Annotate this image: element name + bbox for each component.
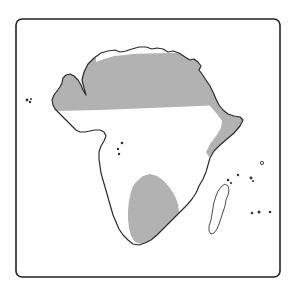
comoros-dot-2 (230, 182, 232, 184)
figure-container (0, 0, 299, 297)
rodrigues-dot (269, 211, 272, 214)
bioko-dot (121, 142, 124, 145)
seychelles-dot-1 (237, 174, 239, 176)
mauritius-dot (258, 211, 261, 214)
africa-map (0, 0, 299, 297)
cape-verde-dot-2 (29, 101, 31, 103)
seychelles-dot-2 (250, 177, 253, 180)
sao-tome-dot (118, 153, 120, 155)
cape-verde-dot-1 (26, 99, 29, 102)
seychelles-dot-3 (252, 180, 254, 182)
comoros-dot-1 (227, 179, 230, 182)
principe-dot (117, 148, 119, 150)
cape-verde-dot-3 (30, 98, 32, 100)
reunion-dot (251, 212, 254, 215)
